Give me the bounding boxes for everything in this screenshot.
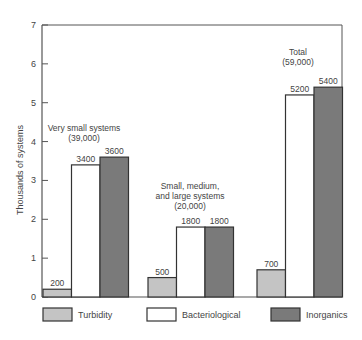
legend-inorganics-label: Inorganics [306,310,348,320]
legend-bacteriological-label: Bacteriological [182,310,241,320]
category-annotation: (59,000) [282,57,314,67]
bar-bacteriological [286,95,315,297]
y-axis-ticks: 01234567 [31,20,48,302]
category-annotation: and large systems [156,191,225,201]
category-annotation: Total [289,47,307,57]
y-tick-label: 5 [31,98,36,108]
value-label: 5200 [290,84,309,94]
value-label: 3600 [105,146,124,156]
bar-inorganics [314,87,343,297]
y-tick-label: 4 [31,137,36,147]
value-label: 500 [155,267,169,277]
legend-turbidity-label: Turbidity [78,310,113,320]
bar-bacteriological [177,227,206,297]
value-label: 5400 [319,76,338,86]
y-tick-label: 0 [31,292,36,302]
y-tick-label: 3 [31,175,36,185]
category-annotation: Small, medium, [161,181,220,191]
legend-bacteriological-swatch [147,308,176,321]
bar-bacteriological [72,165,101,297]
chart-canvas: 01234567 2005007003400180052003600180054… [0,0,362,340]
bar-inorganics [100,157,129,297]
value-label: 1800 [210,216,229,226]
category-annotation: Very small systems [48,123,121,133]
value-label: 700 [264,259,278,269]
legend: TurbidityBacteriologicalInorganics [43,308,348,321]
category-annotation: (39,000) [68,133,100,143]
y-tick-label: 1 [31,253,36,263]
bar-turbidity [257,270,286,297]
y-tick-label: 2 [31,214,36,224]
y-tick-label: 7 [31,20,36,30]
y-tick-label: 6 [31,59,36,69]
value-label: 200 [50,278,64,288]
y-axis-label: Thousands of systems [15,124,25,215]
category-annotation: (20,000) [174,201,206,211]
legend-inorganics-swatch [271,308,300,321]
bar-turbidity [43,289,72,297]
value-label: 3400 [76,154,95,164]
bar-inorganics [205,227,234,297]
value-label: 1800 [181,216,200,226]
legend-turbidity-swatch [43,308,72,321]
bar-chart: 01234567 2005007003400180052003600180054… [0,0,362,340]
bar-turbidity [148,278,177,297]
